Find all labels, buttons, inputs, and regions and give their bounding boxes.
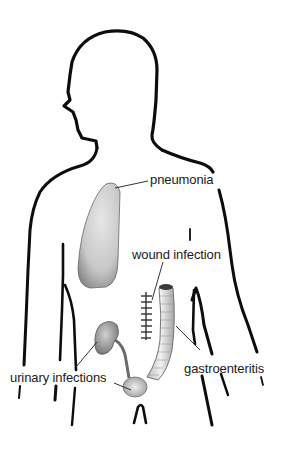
- bladder-organ: [123, 377, 147, 397]
- label-gastroenteritis: gastroenteritis: [184, 362, 264, 375]
- right-inner-outline: [193, 290, 195, 344]
- left-arm-inner-outline: [60, 244, 63, 360]
- leader-gastro: [176, 326, 200, 350]
- left-arm-lower-2: [55, 386, 56, 400]
- intestine-opening: [159, 284, 173, 290]
- right-leg-outline-2: [221, 374, 228, 395]
- crotch-outline: [134, 405, 146, 423]
- right-shoulder-outline: [162, 150, 213, 172]
- ureter: [115, 340, 129, 378]
- right-arm-outline: [219, 190, 257, 352]
- right-leg-outline-1: [202, 376, 212, 425]
- label-pneumonia: pneumonia: [150, 173, 213, 186]
- kidney-organ: [95, 322, 119, 355]
- lung-organ: [78, 183, 120, 288]
- label-urinary-infections: urinary infections: [10, 371, 106, 384]
- leader-pneumonia: [115, 181, 148, 188]
- intestine-organ: [147, 287, 174, 381]
- label-wound-infection: wound infection: [132, 248, 221, 261]
- left-torso-outline: [65, 285, 76, 370]
- leader-urinary-kidney: [76, 342, 97, 367]
- left-leg-outline: [72, 388, 75, 425]
- right-arm-lower: [261, 377, 263, 385]
- head-outline: [64, 31, 162, 150]
- wound-stitches: [141, 292, 152, 340]
- left-arm-lower-1: [19, 386, 20, 398]
